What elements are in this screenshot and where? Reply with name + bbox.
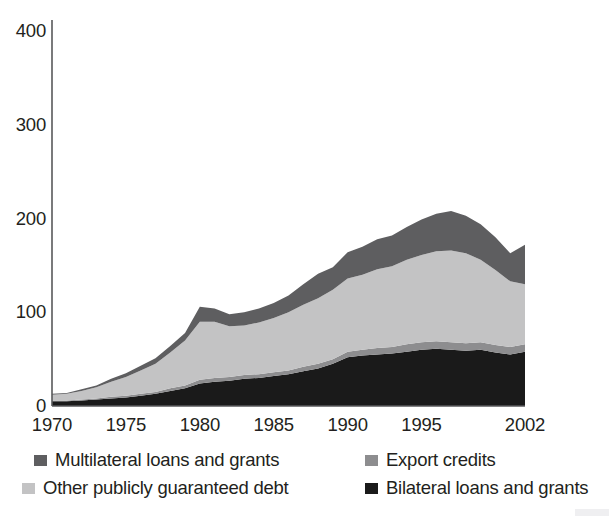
plot-area xyxy=(0,18,611,418)
legend-item-label: Bilateral loans and grants xyxy=(386,478,588,498)
legend-swatch-icon xyxy=(365,455,378,466)
legend-item-label: Multilateral loans and grants xyxy=(55,450,279,470)
legend-swatch-icon xyxy=(365,483,378,494)
stacked-area-chart xyxy=(0,18,611,418)
x-tick-label: 1970 xyxy=(32,414,72,436)
legend-swatch-icon xyxy=(22,483,35,494)
legend-item: Other publicly guaranteed debt xyxy=(22,478,289,498)
x-tick-label: 1975 xyxy=(106,414,146,436)
legend-item: Multilateral loans and grants xyxy=(34,450,279,470)
y-tick-label: 300 xyxy=(4,116,46,135)
y-tick-label: 0 xyxy=(4,397,46,416)
clipped-caption xyxy=(46,0,466,3)
y-axis-tick-labels: 4003002001000 xyxy=(0,18,46,418)
x-tick-label: 2002 xyxy=(505,414,545,436)
y-tick-label: 100 xyxy=(4,303,46,322)
chart-figure: 4003002001000 19701975198019851990199520… xyxy=(0,0,611,517)
x-tick-label: 1995 xyxy=(401,414,441,436)
y-tick-label: 200 xyxy=(4,210,46,229)
y-tick-label: 400 xyxy=(4,22,46,41)
legend-item: Export credits xyxy=(365,450,496,470)
x-tick-label: 1985 xyxy=(254,414,294,436)
legend-item-label: Other publicly guaranteed debt xyxy=(43,478,289,498)
legend-item: Bilateral loans and grants xyxy=(365,478,588,498)
x-tick-label: 1980 xyxy=(180,414,220,436)
chart-legend: Multilateral loans and grantsExport cred… xyxy=(0,448,611,510)
legend-swatch-icon xyxy=(34,455,47,466)
x-tick-label: 1990 xyxy=(327,414,367,436)
legend-item-label: Export credits xyxy=(386,450,496,470)
corner-artifact xyxy=(575,509,609,516)
x-axis-tick-labels: 1970197519801985199019952002 xyxy=(0,414,611,442)
